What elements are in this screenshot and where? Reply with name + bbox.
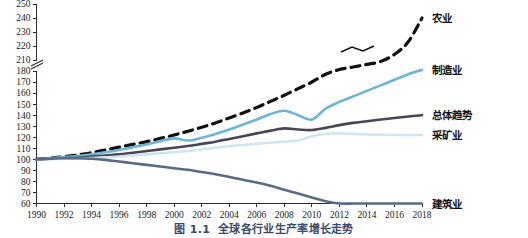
x-tick-label: 1994 [82,210,101,220]
figure-caption: 图 1.1全球各行业生产率增长走势 [0,220,528,236]
x-tick-label: 2000 [165,210,184,220]
x-tick-label: 2012 [330,210,349,220]
y-tick-label: 210 [16,55,31,65]
series-labels-group: 农业制造业总体趋势采矿业建筑业 [431,12,473,210]
y-tick-label: 160 [16,88,31,98]
y-tick-label: 180 [16,66,31,76]
y-tick-label: 130 [16,122,31,132]
x-tick-label: 2010 [302,210,321,220]
y-axis-break-icon [31,60,43,71]
y-axis-ticks: 6070809010011012013014015016017018021022… [16,0,36,209]
y-tick-label: 70 [21,188,31,198]
y-tick-label: 110 [17,144,31,154]
chart-series-group [37,18,423,204]
x-tick-label: 1996 [110,210,129,220]
y-tick-label: 220 [16,41,31,51]
series-label-4: 建筑业 [431,198,463,210]
series-label-0: 农业 [431,12,453,24]
series-line-4 [37,158,423,204]
x-tick-label: 1992 [55,210,74,220]
x-tick-label: 1990 [27,210,46,220]
series-label-2: 总体趋势 [432,109,473,121]
productivity-growth-line-chart: 6070809010011012013014015016017018021022… [0,0,528,238]
series-label-1: 制造业 [432,64,463,76]
y-tick-label: 120 [16,133,31,143]
x-axis-ticks: 1990199219941996199820002002200420062008… [27,204,432,220]
x-tick-label: 2018 [413,210,432,220]
series-break-squiggle-icon [341,46,374,52]
x-tick-label: 2004 [220,210,239,220]
x-tick-label: 1998 [137,210,156,220]
y-tick-label: 170 [16,77,31,87]
series-label-3: 采矿业 [431,129,463,141]
y-tick-label: 250 [16,0,31,9]
chart-axes [31,4,422,204]
y-tick-label: 150 [16,100,31,110]
figure-caption-title: 全球各行业生产率增长走势 [218,223,354,236]
y-tick-label: 60 [21,199,31,209]
figure-caption-number: 图 1.1 [174,223,210,236]
y-tick-label: 80 [21,177,31,187]
y-tick-label: 230 [16,27,31,37]
x-tick-label: 2016 [385,210,404,220]
y-tick-label: 240 [16,13,31,23]
y-tick-label: 100 [16,155,31,165]
x-tick-label: 2008 [275,210,294,220]
x-tick-label: 2002 [192,210,211,220]
x-tick-label: 2006 [247,210,266,220]
y-tick-label: 140 [16,111,31,121]
y-tick-label: 90 [21,166,31,176]
x-tick-label: 2014 [357,210,376,220]
figure-container: 6070809010011012013014015016017018021022… [0,0,528,238]
